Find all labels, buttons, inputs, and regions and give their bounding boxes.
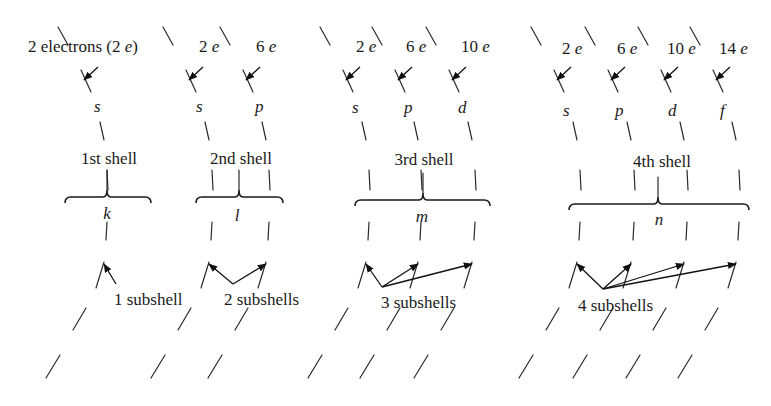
- arc-segment: [46, 355, 60, 378]
- electron-label-4p: 6 e: [617, 39, 638, 58]
- arc-segment: [414, 122, 418, 140]
- arc-segment: [474, 222, 475, 240]
- shell-name-1: 1st shell: [81, 149, 137, 168]
- arc-segment: [362, 122, 366, 140]
- arc-segment: [705, 308, 718, 330]
- arc-segment: [269, 170, 270, 190]
- subshell-arrow: [209, 264, 233, 284]
- subshell-label-4p: p: [614, 101, 624, 120]
- arc-segment: [235, 308, 248, 330]
- subshell-arrow: [366, 264, 382, 287]
- subshell-arrow: [104, 264, 116, 284]
- arc-segment: [687, 170, 688, 190]
- arc-segment: [634, 170, 635, 190]
- electron-label-3p: 6 e: [406, 37, 427, 56]
- arc-segment: [163, 27, 173, 45]
- shell-name-3: 3rd shell: [394, 150, 453, 169]
- arc-segment: [633, 222, 634, 240]
- arc-segment: [308, 355, 322, 378]
- electron-label-4s: 2 e: [562, 39, 583, 58]
- electron-label-3d: 10 e: [461, 37, 490, 56]
- subshell-label-4s: s: [563, 101, 570, 120]
- arc-segment: [358, 262, 366, 288]
- subshell-label-4f: f: [720, 101, 727, 120]
- subshell-arrow: [603, 264, 736, 289]
- arc-segment: [268, 222, 269, 240]
- arc-segment: [627, 122, 631, 140]
- subshell-count-4: 4 subshells: [578, 296, 653, 315]
- arc-segment: [661, 70, 671, 92]
- arc-segment: [426, 27, 436, 45]
- shell-brace: [196, 190, 283, 203]
- subshell-label-1s: s: [94, 97, 101, 116]
- arc-segment: [243, 70, 253, 92]
- arc-segment: [201, 262, 209, 288]
- subshell-label-2s: s: [196, 97, 203, 116]
- arc-segment: [360, 355, 374, 378]
- arc-segment: [739, 170, 740, 190]
- arc-segment: [106, 222, 107, 240]
- electron-arrow: [557, 67, 571, 80]
- subshell-label-3d: d: [458, 98, 467, 117]
- shell-letter-n: n: [655, 210, 664, 229]
- shell-letter-k: k: [103, 204, 111, 223]
- arc-segment: [369, 170, 370, 190]
- subshell-arcs: [46, 27, 740, 378]
- arc-segment: [713, 70, 723, 92]
- arc-segment: [320, 27, 330, 45]
- electron-label-3s: 2 e: [356, 37, 377, 56]
- subshell-count-1: 1 subshell: [114, 290, 183, 309]
- arc-segment: [81, 70, 91, 92]
- shell-brace: [355, 193, 490, 206]
- arc-segment: [579, 222, 580, 240]
- arc-segment: [343, 70, 353, 92]
- arc-segment: [449, 70, 459, 92]
- electron-arrow: [611, 67, 625, 80]
- electron-arrow: [84, 67, 98, 80]
- arc-segment: [205, 122, 209, 140]
- electron-label-4d: 10 e: [667, 39, 696, 58]
- shell-brace: [569, 197, 749, 210]
- arc-segment: [653, 308, 666, 330]
- subshell-label-3p: p: [403, 98, 413, 117]
- subshell-arrow: [382, 264, 418, 287]
- arc-segment: [368, 222, 369, 240]
- electron-label-2s: 2 e: [199, 37, 220, 56]
- arc-segment: [208, 355, 222, 378]
- electron-arrow: [246, 67, 260, 80]
- shell-letter-l: l: [235, 206, 240, 225]
- electron-arrow: [398, 67, 412, 80]
- arc-segment: [151, 355, 165, 378]
- arc-segment: [638, 27, 648, 45]
- diagram-canvas: 2 electrons (2 e) 2 e 6 e 2 e 6 e 10 e 2…: [0, 0, 771, 406]
- arc-segment: [186, 70, 196, 92]
- arc-segment: [608, 70, 618, 92]
- subshell-label-2p: p: [254, 97, 264, 116]
- shell-letter-m: m: [416, 207, 428, 226]
- arc-segment: [335, 308, 348, 330]
- arc-segment: [262, 122, 266, 140]
- arc-segment: [573, 355, 587, 378]
- shell-diagram: 2 electrons (2 e) 2 e 6 e 2 e 6 e 10 e 2…: [0, 0, 771, 406]
- arc-segment: [421, 170, 422, 190]
- electron-arrow: [346, 67, 360, 80]
- subshell-arrow: [577, 264, 603, 289]
- arc-segment: [686, 222, 687, 240]
- arc-segment: [554, 70, 564, 92]
- arc-segment: [475, 170, 476, 190]
- arc-segment: [468, 122, 472, 140]
- arc-segment: [73, 308, 86, 330]
- arc-segment: [178, 308, 191, 330]
- arc-segment: [96, 262, 104, 288]
- arc-segment: [580, 170, 581, 190]
- electron-arrow: [452, 67, 466, 80]
- arc-segment: [585, 27, 595, 45]
- subshell-count-2: 2 subshells: [224, 290, 299, 309]
- electron-label-4f: 14 e: [719, 39, 748, 58]
- arc-segment: [678, 355, 692, 378]
- electron-arrow: [189, 67, 203, 80]
- subshell-arrow: [382, 264, 472, 287]
- arc-segment: [211, 222, 212, 240]
- electron-label-1s: 2 electrons (2 e): [28, 37, 138, 56]
- arc-segment: [220, 27, 230, 45]
